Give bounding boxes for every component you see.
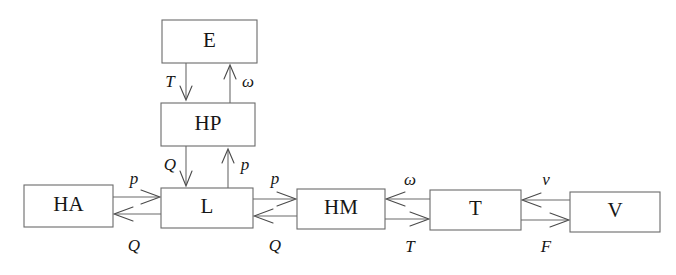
diagram-svg: T ω Q p p Q xyxy=(0,0,676,275)
edge-l-to-hp: p xyxy=(222,149,249,188)
edge-t-to-hm: ω xyxy=(386,170,430,206)
edge-label-v-t: v xyxy=(542,170,550,189)
edge-label-hp-l: Q xyxy=(164,155,176,174)
edge-l-to-ha: Q xyxy=(114,207,161,255)
edge-hm-to-l: Q xyxy=(254,209,297,255)
node-label-t: T xyxy=(469,196,482,220)
block-diagram-canvas: T ω Q p p Q xyxy=(0,0,676,275)
node-v[interactable]: V xyxy=(570,192,660,232)
edge-label-l-hm: p xyxy=(270,169,280,188)
edge-label-hm-t: T xyxy=(405,237,416,256)
node-l[interactable]: L xyxy=(161,188,253,228)
edge-v-to-t: v xyxy=(522,170,570,207)
edge-label-t-hm: ω xyxy=(404,170,416,189)
edge-l-to-hm: p xyxy=(253,169,296,206)
node-hm[interactable]: HM xyxy=(297,189,385,229)
node-label-v: V xyxy=(607,198,622,222)
edge-label-l-ha: Q xyxy=(128,236,140,255)
node-label-ha: HA xyxy=(53,192,84,216)
edge-label-e-hp: T xyxy=(165,72,176,91)
node-ha[interactable]: HA xyxy=(24,185,113,227)
edge-hp-to-l: Q xyxy=(164,146,192,186)
edge-hp-to-e: ω xyxy=(224,65,254,103)
node-t[interactable]: T xyxy=(430,190,521,230)
edge-hm-to-t: T xyxy=(385,212,429,256)
edge-ha-to-l: p xyxy=(113,169,160,204)
node-label-e: E xyxy=(203,28,216,52)
edge-label-ha-l: p xyxy=(129,169,139,188)
edge-label-l-hp: p xyxy=(240,155,250,174)
edge-e-to-hp: T xyxy=(165,63,192,100)
node-label-hp: HP xyxy=(195,111,222,135)
node-label-l: L xyxy=(201,194,214,218)
node-label-hm: HM xyxy=(324,195,358,219)
edge-label-t-v: F xyxy=(540,237,552,256)
node-e[interactable]: E xyxy=(162,20,257,63)
edge-t-to-v: F xyxy=(521,213,569,256)
node-hp[interactable]: HP xyxy=(161,103,255,146)
edge-label-hp-e: ω xyxy=(242,72,254,91)
edge-label-hm-l: Q xyxy=(269,236,281,255)
